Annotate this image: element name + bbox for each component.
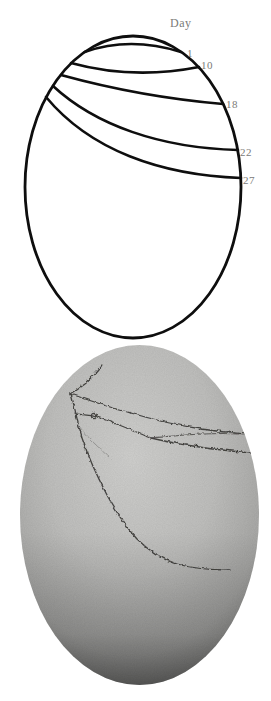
day-label-1: 1: [187, 47, 193, 59]
egg-outline: [25, 36, 241, 338]
day-label-18: 18: [226, 98, 238, 110]
egg-pipping-figure: Day 1 10 18 22 27: [0, 0, 271, 701]
crack-line-day-27: [46, 97, 241, 178]
photo-egg-shell-texture: [0, 341, 271, 701]
day-label-27: 27: [243, 174, 255, 186]
crack-line-day-10: [71, 63, 199, 73]
day-label-10: 10: [201, 59, 213, 71]
figure-root: { "figure": { "panel_top": { "title": "D…: [0, 0, 271, 701]
day-axis-title: Day: [170, 16, 192, 30]
diagram-labels: Day 1 10 18 22 27: [170, 16, 255, 186]
crack-line-day-18: [61, 75, 223, 104]
day-label-22: 22: [240, 146, 252, 158]
crack-line-day-22: [53, 86, 238, 150]
egg-photo: [0, 341, 271, 701]
egg-diagram: Day 1 10 18 22 27: [0, 0, 271, 341]
